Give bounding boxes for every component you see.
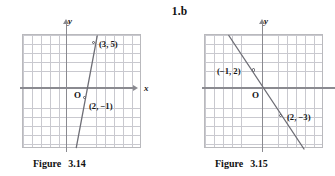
figure-caption-word: Figure [215,158,243,169]
figure-caption: Figure3.15 [215,158,268,169]
plotted-line [167,0,335,176]
origin-label: O [74,90,81,100]
origin-label: O [252,90,259,100]
figure-caption-number: 3.15 [250,158,268,169]
figure-3-14: x y (3, 5) (2, −1) O Figure3.14 [0,0,167,176]
data-point-marker [252,68,255,71]
data-point-label: (2, −1) [89,101,113,111]
plotted-line [0,0,167,176]
figure-3-15: y (−1, 2) (2, −3) O Figure3.15 [167,0,335,176]
data-point-marker [83,96,86,99]
figure-caption: Figure3.14 [33,158,86,169]
figure-caption-word: Figure [33,158,61,169]
data-point-label: (2, −3) [287,112,311,122]
data-point-label: (−1, 2) [217,66,241,76]
figure-caption-number: 3.14 [68,158,86,169]
data-point-label: (3, 5) [99,39,118,49]
